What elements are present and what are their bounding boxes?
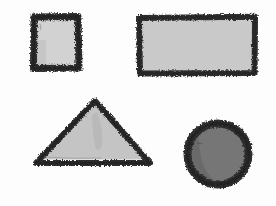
shapes-illustration: [0, 0, 276, 206]
shape-circle: [188, 124, 249, 185]
drawing-canvas: Hand-drawn geometric shapes: [0, 0, 276, 206]
rectangle-fill: [140, 18, 255, 73]
shape-square: [34, 17, 80, 69]
shape-rectangle: [139, 17, 255, 74]
